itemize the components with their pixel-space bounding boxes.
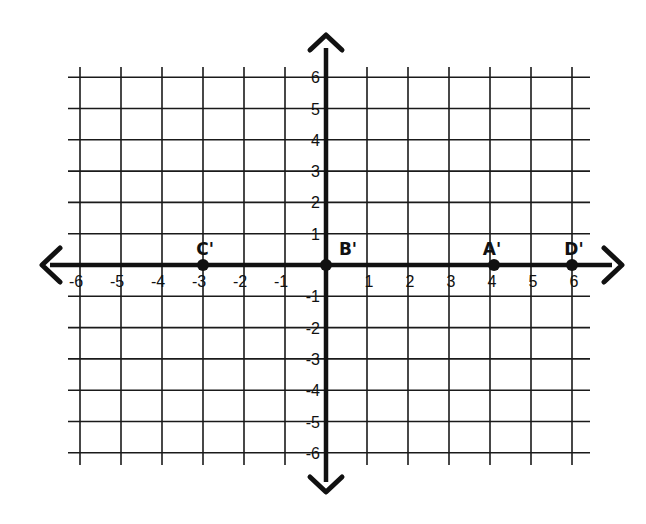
y-tick-label: 1: [311, 226, 320, 243]
x-tick-label: -5: [110, 273, 124, 290]
x-tick-label: -2: [233, 273, 247, 290]
point-marker: [320, 259, 332, 271]
y-tick-label: -6: [306, 445, 320, 462]
y-tick-label: -1: [306, 288, 320, 305]
point-label: B': [339, 239, 357, 259]
x-tick-label: -1: [274, 273, 288, 290]
y-tick-label: 5: [311, 101, 320, 118]
y-axis-up-arrow-icon: [310, 35, 342, 50]
x-tick-label: 6: [570, 273, 579, 290]
y-tick-label: 2: [311, 194, 320, 211]
y-tick-label: -5: [306, 414, 320, 431]
x-tick-label: -3: [192, 273, 206, 290]
coordinate-plane: -6-5-4-3-2-1123456 654321-1-2-3-4-5-6 C'…: [0, 0, 646, 524]
point-label: D': [564, 239, 583, 259]
y-tick-label: -3: [306, 351, 320, 368]
x-tick-label: 4: [488, 273, 497, 290]
x-tick-label: 3: [447, 273, 456, 290]
point-label: A': [483, 239, 501, 259]
point-marker: [197, 259, 209, 271]
y-tick-label: 6: [311, 69, 320, 86]
y-tick-label: 4: [311, 132, 320, 149]
point-marker: [566, 259, 578, 271]
point-label: C': [196, 239, 214, 259]
y-tick-label: -2: [306, 320, 320, 337]
x-tick-label: 2: [406, 273, 415, 290]
x-tick-label: -6: [69, 273, 83, 290]
x-tick-label: 1: [365, 273, 374, 290]
x-tick-label: 5: [529, 273, 538, 290]
y-tick-label: 3: [311, 163, 320, 180]
y-tick-label: -4: [306, 382, 320, 399]
point-marker: [488, 259, 500, 271]
x-tick-labels: -6-5-4-3-2-1123456: [69, 273, 579, 290]
x-tick-label: -4: [151, 273, 165, 290]
